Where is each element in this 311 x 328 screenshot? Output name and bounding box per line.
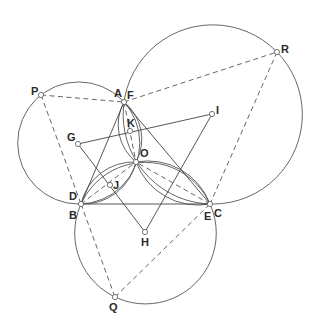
label-D: D [69,190,77,202]
label-J: J [113,179,119,191]
label-Q: Q [109,301,118,313]
label-C: C [214,207,222,219]
segment-FR [124,52,277,102]
point-I [209,111,214,116]
label-K: K [127,117,135,129]
point-C [207,201,212,206]
label-A: A [114,87,122,99]
point-Q [112,294,117,299]
point-H [142,229,147,234]
label-F: F [127,89,134,101]
segment-PD [41,95,81,204]
diagram-canvas: A F B D C E P Q R G H I K O J [0,0,311,328]
segment-RE [210,52,277,204]
label-B: B [69,209,77,221]
point-A [121,99,126,104]
label-E: E [204,210,211,222]
label-I: I [216,104,219,116]
segment-DQ [81,204,115,297]
point-J [107,182,112,187]
point-O [133,159,138,164]
segment-GI [78,114,212,144]
point-P [38,92,43,97]
segment-PF [41,95,124,102]
point-K [127,128,132,133]
point-R [274,49,279,54]
geometry-diagram: A F B D C E P Q R G H I K O J [0,0,311,328]
label-P: P [31,85,38,97]
point-B [78,201,83,206]
label-H: H [141,236,149,248]
label-R: R [281,43,289,55]
point-G [75,141,80,146]
label-O: O [140,147,149,159]
label-G: G [67,131,76,143]
